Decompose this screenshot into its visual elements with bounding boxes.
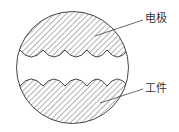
workpiece-label: 工件: [145, 83, 167, 95]
electrode-label: 电极: [145, 13, 167, 25]
electrode-region: [0, 0, 179, 57]
